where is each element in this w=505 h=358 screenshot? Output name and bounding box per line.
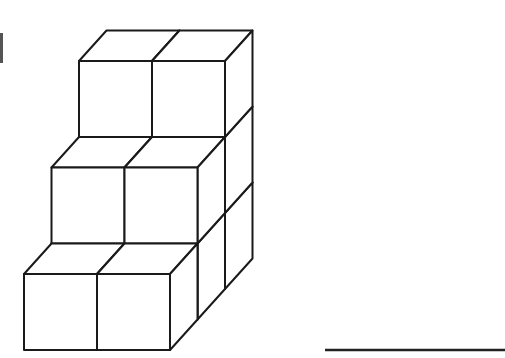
cube-front-face xyxy=(152,61,225,137)
cube-staircase-figure xyxy=(0,0,505,358)
cube-front-face xyxy=(97,274,170,350)
margin-mark xyxy=(0,33,3,63)
cube-group xyxy=(24,31,253,351)
cube-front-face xyxy=(24,274,97,350)
cube-front-face xyxy=(52,168,125,244)
cube-front-face xyxy=(79,61,152,137)
cube-front-face xyxy=(125,168,198,244)
